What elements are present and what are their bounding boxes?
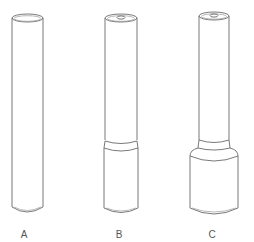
label-c: C [202,229,222,241]
label-b: B [109,229,129,241]
label-a: A [14,229,34,241]
cylinder-diagram: A B C [0,0,254,242]
cylinder-a [12,14,43,212]
cylinder-c [190,12,238,214]
diagram-canvas [0,0,254,242]
cylinder-b [104,14,138,213]
